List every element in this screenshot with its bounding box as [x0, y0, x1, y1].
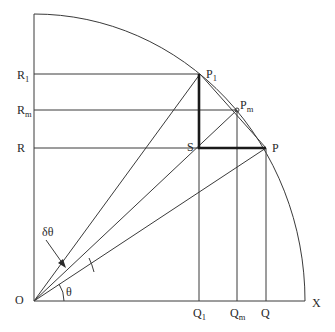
label-Rm: Rm	[17, 103, 32, 119]
theta-label: θ	[66, 285, 72, 299]
quarter-circle-diagram: O X θ δθ R1 Rm R Q1 Qm Q P1 Pm P S	[0, 0, 335, 332]
chord-P1-P	[200, 74, 266, 148]
label-Qm: Qm	[230, 306, 246, 322]
label-Q1: Q1	[193, 306, 206, 322]
radius-O-P1	[34, 74, 200, 301]
label-S: S	[187, 140, 194, 154]
quarter-arc	[34, 14, 305, 301]
delta-theta-arc	[89, 258, 94, 272]
delta-theta-label: δθ	[42, 225, 54, 239]
delta-theta-arrow	[46, 240, 63, 264]
label-Pm: Pm	[240, 98, 254, 114]
label-Q: Q	[261, 306, 270, 320]
x-axis-label: X	[312, 296, 321, 310]
label-P: P	[272, 141, 279, 155]
origin-label: O	[15, 293, 24, 307]
label-R1: R1	[17, 68, 29, 84]
theta-arc	[59, 284, 64, 301]
label-P1: P1	[206, 67, 217, 83]
radius-O-P	[34, 148, 266, 301]
label-R: R	[17, 141, 25, 155]
radius-O-Pm	[34, 110, 237, 301]
